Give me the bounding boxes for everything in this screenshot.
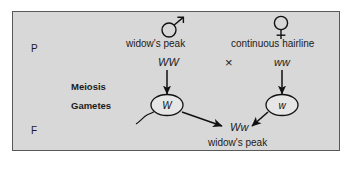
gamete-male: W	[151, 95, 183, 116]
gamete-female: w	[266, 95, 298, 116]
svg-text:w: w	[278, 100, 286, 111]
fertilization-arrow-female	[252, 112, 268, 126]
diagram-connectors: W w	[0, 0, 356, 170]
genetics-cross-diagram: P F Meiosis Gametes widow's peak continu…	[0, 0, 356, 170]
sperm-tail	[136, 112, 154, 124]
fertilization-arrow-male	[182, 112, 222, 126]
svg-text:W: W	[162, 100, 173, 111]
